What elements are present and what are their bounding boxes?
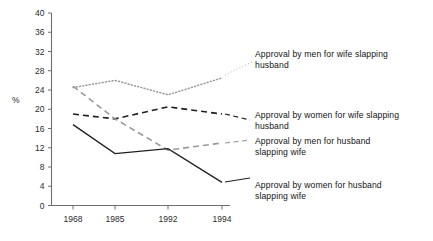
annotation-leader-lines <box>225 62 252 182</box>
y-tick-label: 16 <box>35 124 45 134</box>
y-tick-label: 32 <box>35 47 45 57</box>
annot-men-wife-slapping-husband: Approval by men for wife slapping husban… <box>255 49 431 70</box>
leader-men-wife-icon <box>225 62 252 75</box>
x-axis-ticks: 1968198519921994 <box>64 206 232 224</box>
line-chart: 0481216202428323640 1968198519921994 % A… <box>0 0 433 241</box>
leader-women-wife-icon <box>225 114 250 120</box>
y-axis-ticks: 0481216202428323640 <box>35 8 51 211</box>
annot-women-wife-slapping-husband: Approval by women for wife slapping husb… <box>255 110 433 131</box>
y-tick-label: 12 <box>35 143 45 153</box>
y-tick-label: 36 <box>35 27 45 37</box>
x-tick-label: 1968 <box>64 214 83 224</box>
annot-women-husband-slapping-wife: Approval by women for husband slapping w… <box>255 180 433 201</box>
y-tick-label: 4 <box>40 181 45 191</box>
x-tick-label: 1994 <box>213 214 232 224</box>
y-tick-label: 0 <box>40 201 45 211</box>
x-tick-label: 1985 <box>106 214 125 224</box>
annot-men-husband-slapping-wife: Approval by men for husband slapping wif… <box>255 136 433 157</box>
y-tick-label: 20 <box>35 104 45 114</box>
x-tick-label: 1992 <box>159 214 178 224</box>
y-tick-label: 8 <box>40 162 45 172</box>
leader-women-husband-icon <box>225 178 250 182</box>
chart-series-group <box>73 78 222 182</box>
y-tick-label: 28 <box>35 66 45 76</box>
series-line-0 <box>73 78 222 95</box>
y-axis-label: % <box>12 95 20 105</box>
series-line-3 <box>73 125 222 183</box>
series-line-1 <box>73 107 222 119</box>
y-tick-label: 24 <box>35 85 45 95</box>
leader-men-husband-icon <box>225 140 250 143</box>
y-tick-label: 40 <box>35 8 45 18</box>
